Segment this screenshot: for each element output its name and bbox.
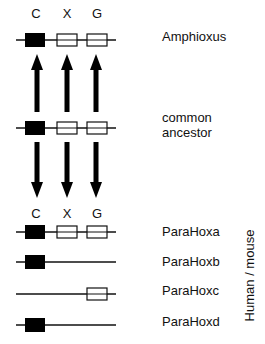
gene-label-x-top: X bbox=[57, 7, 77, 21]
row-label-parahoxa: ParaHoxa bbox=[162, 225, 220, 239]
gene-box-c-parahoxa bbox=[25, 225, 45, 239]
arrow-down-x bbox=[61, 142, 73, 198]
gene-label-x-bottom: X bbox=[57, 207, 77, 221]
group-label-human-mouse: Human / mouse bbox=[242, 224, 257, 328]
arrow-up-g bbox=[90, 54, 102, 112]
gene-label-g-bottom: G bbox=[87, 207, 107, 221]
gene-box-c-amphioxus bbox=[25, 33, 45, 47]
row-label-parahoxc: ParaHoxc bbox=[162, 284, 219, 298]
arrow-down-g bbox=[90, 142, 102, 198]
gene-label-c-top: C bbox=[26, 7, 46, 21]
arrow-down-c bbox=[31, 142, 43, 198]
gene-label-c-bottom: C bbox=[26, 207, 46, 221]
paraHox-diagram bbox=[0, 0, 265, 344]
row-label-ancestor: ancestor bbox=[162, 126, 212, 140]
arrow-up-x bbox=[61, 54, 73, 112]
gene-box-c-parahoxb bbox=[25, 255, 45, 269]
row-label-common: common bbox=[162, 111, 212, 125]
row-label-amphioxus: Amphioxus bbox=[162, 30, 226, 44]
row-label-parahoxd: ParaHoxd bbox=[162, 315, 220, 329]
gene-label-g-top: G bbox=[87, 7, 107, 21]
arrow-up-c bbox=[31, 54, 43, 112]
gene-box-c-common-ancestor bbox=[25, 121, 45, 135]
gene-box-c-parahoxd bbox=[25, 318, 45, 332]
row-label-parahoxb: ParaHoxb bbox=[162, 255, 220, 269]
